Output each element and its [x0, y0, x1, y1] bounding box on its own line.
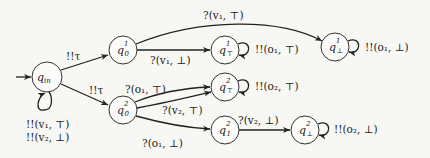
label-qin-self-1: !!(v₁, ⊤)	[26, 118, 69, 130]
label-qT2-self: !!(o₂, ⊤)	[255, 80, 299, 92]
automaton-diagram: qin q10 q1⊤ q1⊥ q20 q2⊤ q21 q2⊥ !!(v₁, ⊤…	[0, 0, 430, 158]
qT1-self-loop	[238, 43, 249, 55]
label-q02-o1-bot: ?(o₁, ⊥)	[142, 137, 183, 149]
label-q01-qT1: ?(v₁, ⊥)	[150, 54, 191, 66]
node-qB-2: q2⊥	[291, 116, 319, 144]
node-qT-2: q2⊤	[211, 73, 239, 101]
label-q02-o1-top: ?(o₁, ⊤)	[125, 83, 166, 95]
label-q12-qB2: ?(v₂, ⊥)	[238, 114, 279, 126]
label-tau-lower: !!τ	[89, 84, 103, 96]
node-q0-2: q20	[109, 96, 137, 124]
label-q01-qB1: ?(v₁, ⊤)	[203, 9, 244, 21]
q-in-self-loop	[38, 93, 45, 110]
label-qin-self-2: !!(v₂, ⊥)	[26, 131, 69, 143]
qB2-self-loop	[318, 123, 329, 135]
edge-q02-q12	[136, 116, 210, 129]
node-q1-2: q21	[211, 116, 239, 144]
node-q-in: qin	[32, 62, 62, 92]
node-q0-1: q10	[109, 36, 137, 64]
label-qB1-self: !!(o₁, ⊥)	[365, 41, 409, 53]
node-qT-1: q1⊤	[211, 36, 239, 64]
qB1-self-loop	[348, 40, 359, 52]
label-q02-v2-top: ?(v₂, ⊤)	[162, 104, 203, 116]
q-in-self-loop-tail	[44, 92, 51, 110]
label-qT1-self: !!(o₁, ⊤)	[255, 43, 299, 55]
node-qB-1: q1⊥	[321, 33, 349, 61]
label-tau-upper: !!τ	[66, 50, 80, 62]
label-qB2-self: !!(o₂, ⊥)	[334, 123, 378, 135]
qT2-self-loop	[238, 80, 249, 92]
